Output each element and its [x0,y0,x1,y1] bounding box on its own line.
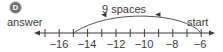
tick-label: −6 [194,38,207,50]
answer-label: answer [7,17,42,28]
tick-label: −8 [166,38,179,50]
tick-label: −10 [135,38,154,50]
jump-label: 9 spaces [102,4,146,15]
tick-label: −14 [78,38,97,50]
right-arrow-icon [209,31,215,36]
left-arrow-icon [34,31,40,36]
tick-label: −16 [50,38,69,50]
jump-arc [73,16,201,33]
start-label: start [187,17,208,28]
number-line-diagram: D answer 9 spaces start −16 [0,0,223,52]
tick-label: −12 [107,38,126,50]
